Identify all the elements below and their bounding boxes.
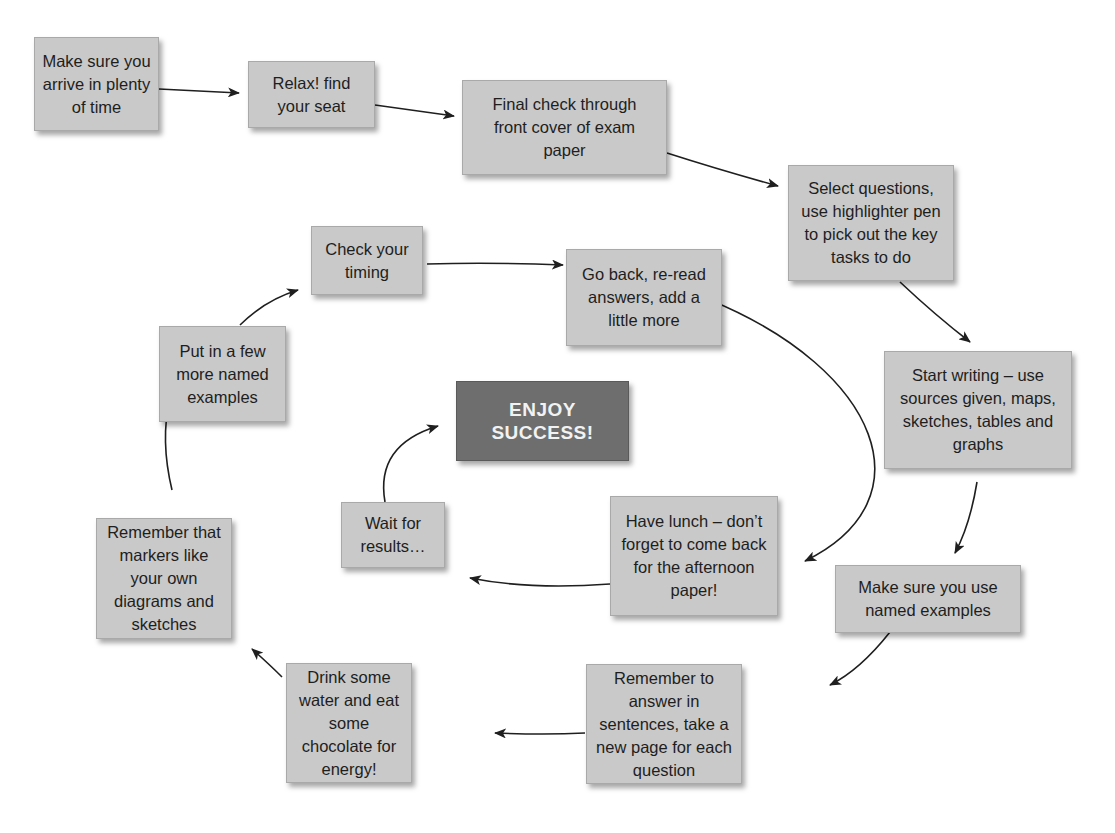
node-front-cover: Final check through front cover of exam … <box>462 80 667 175</box>
node-wait: Wait for results… <box>341 502 445 568</box>
node-label: Drink some water and eat some chocolate … <box>293 666 405 781</box>
node-label: Go back, re-read answers, add a little m… <box>579 263 709 332</box>
arrow-more-examples-to-timing <box>240 290 298 325</box>
node-timing: Check your timing <box>311 226 423 295</box>
node-arrive: Make sure you arrive in plenty of time <box>34 37 159 131</box>
arrow-wait-to-success <box>384 426 438 502</box>
arrow-select-to-start-writing <box>900 282 970 342</box>
node-label: ENJOY SUCCESS! <box>483 398 603 444</box>
node-enjoy-success: ENJOY SUCCESS! <box>456 381 629 461</box>
node-label: Relax! find your seat <box>255 72 368 118</box>
node-label: Make sure you arrive in plenty of time <box>41 50 152 119</box>
node-label: Have lunch – don’t forget to come back f… <box>617 510 771 602</box>
node-lunch: Have lunch – don’t forget to come back f… <box>610 496 778 616</box>
arrow-seat-to-front-cover <box>375 105 454 116</box>
arrow-water-to-markers <box>252 649 282 677</box>
node-more-examples: Put in a few more named examples <box>159 326 286 422</box>
node-start-writing: Start writing – use sources given, maps,… <box>884 351 1072 469</box>
node-go-back: Go back, re-read answers, add a little m… <box>566 249 722 346</box>
node-label: Start writing – use sources given, maps,… <box>898 364 1058 456</box>
node-select: Select questions, use highlighter pen to… <box>788 165 954 281</box>
arrow-named-to-sentences <box>830 632 890 685</box>
node-seat: Relax! find your seat <box>248 61 375 128</box>
node-label: Put in a few more named examples <box>173 340 273 409</box>
arrow-arrive-to-seat <box>159 89 239 93</box>
node-markers: Remember that markers like your own diag… <box>96 518 232 639</box>
arrow-start-writing-to-named <box>955 482 977 553</box>
arrow-lunch-to-wait <box>470 578 610 586</box>
arrow-timing-to-go-back <box>427 263 563 265</box>
arrow-sentences-to-water <box>495 733 585 734</box>
node-label: Remember to answer in sentences, take a … <box>593 667 735 782</box>
node-named-examples: Make sure you use named examples <box>835 565 1021 633</box>
node-label: Check your timing <box>322 238 412 284</box>
node-label: Final check through front cover of exam … <box>480 93 650 162</box>
node-sentences: Remember to answer in sentences, take a … <box>586 664 742 784</box>
node-label: Make sure you use named examples <box>848 576 1008 622</box>
node-label: Remember that markers like your own diag… <box>103 521 225 636</box>
node-water: Drink some water and eat some chocolate … <box>286 663 412 783</box>
node-label: Wait for results… <box>353 512 433 558</box>
node-label: Select questions, use highlighter pen to… <box>796 177 946 269</box>
arrow-front-cover-to-select <box>667 153 778 186</box>
